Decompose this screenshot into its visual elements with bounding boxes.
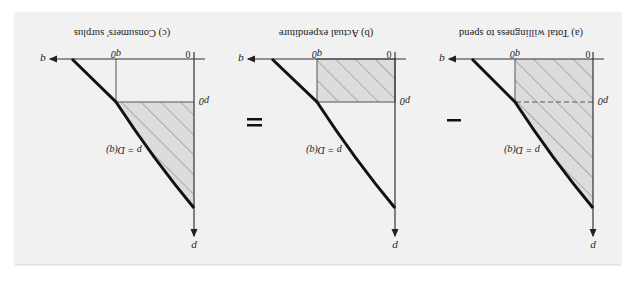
panel-c-q0-label: q0 xyxy=(111,49,121,60)
panel-a-curve-label: p = D(q) xyxy=(504,144,541,156)
panel-b-caption: (b) Actual expenditure xyxy=(278,27,373,39)
panel-c xyxy=(50,52,205,236)
panel-a-x-axis-label: q xyxy=(439,54,445,66)
panel-a xyxy=(449,52,604,236)
panel-b-y-axis-label: p xyxy=(392,241,399,253)
panel-b-q0-label: q0 xyxy=(312,49,322,60)
panel-a-q0-label: q0 xyxy=(510,49,520,60)
panel-a-p0-label: p0 xyxy=(598,96,609,107)
shaded-total-willingness xyxy=(515,59,593,208)
panel-c-curve-label: p = D(q) xyxy=(106,144,143,156)
panel-c-y-axis-label: p xyxy=(191,241,198,253)
panel-b-curve-label: p = D(q) xyxy=(306,144,343,156)
panel-c-caption: (c) Consumers' surplus xyxy=(74,27,170,39)
panel-b xyxy=(248,52,406,236)
panel-c-p0-label: p0 xyxy=(199,96,210,107)
panel-a-caption: (a) Total willingness to spend xyxy=(458,27,583,39)
panel-c-x-axis-label: q xyxy=(40,54,46,66)
equals-operator xyxy=(247,118,262,127)
panel-b-origin-label: 0 xyxy=(387,49,392,60)
shaded-expenditure xyxy=(317,59,395,102)
panel-a-y-axis-label: p xyxy=(590,241,597,253)
consumer-surplus-diagram: (a) Total willingness to spend 0 q0 p0 q… xyxy=(0,0,639,284)
panel-c-origin-label: 0 xyxy=(186,49,191,60)
panel-b-p0-label: p0 xyxy=(400,96,411,107)
panel-b-x-axis-label: q xyxy=(238,54,244,66)
minus-operator xyxy=(447,119,461,122)
panel-a-origin-label: 0 xyxy=(586,49,591,60)
